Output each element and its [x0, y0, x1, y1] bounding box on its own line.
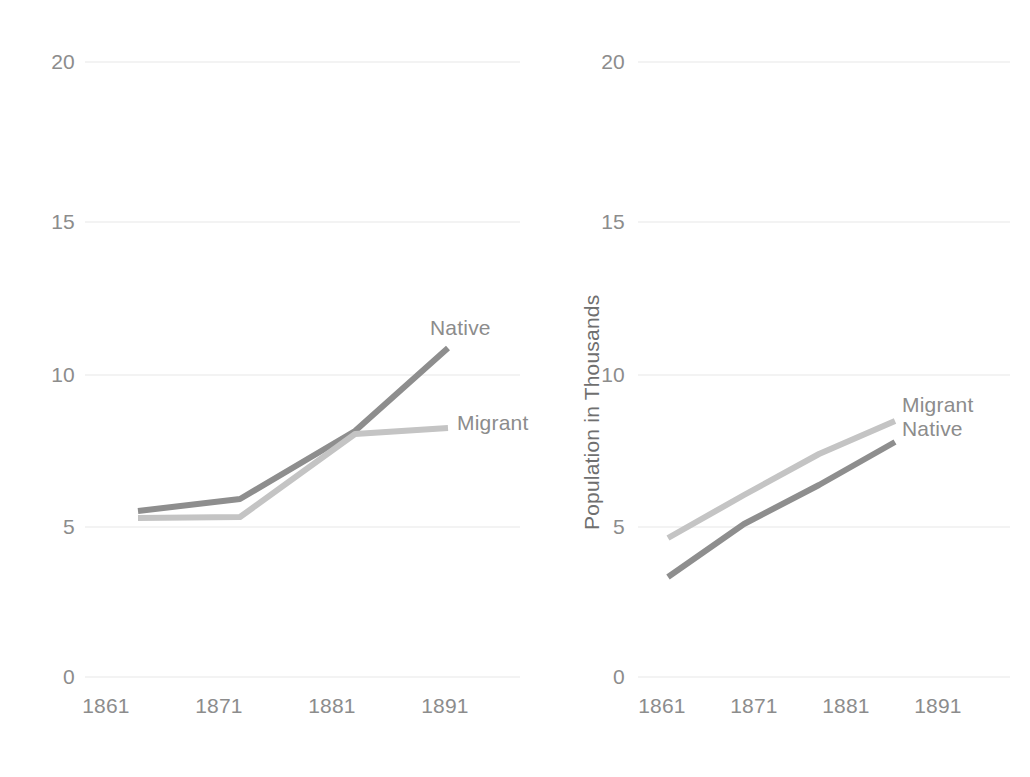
left-plot-area [0, 0, 560, 777]
right-gridlines [638, 62, 1010, 677]
left-series-label-native: Native [430, 316, 491, 340]
left-y-tick-0: 0 [20, 665, 75, 689]
right-y-tick-0: 0 [570, 665, 625, 689]
left-y-tick-20: 20 [20, 50, 75, 74]
left-y-tick-15: 15 [20, 210, 75, 234]
right-x-tick-1881: 1881 [806, 694, 886, 718]
left-x-tick-1891: 1891 [405, 694, 485, 718]
right-y-tick-5: 5 [570, 515, 625, 539]
right-series-label-migrant: Migrant [902, 393, 973, 417]
left-y-tick-5: 5 [20, 515, 75, 539]
left-x-tick-1861: 1861 [66, 694, 146, 718]
right-series-label-native: Native [902, 417, 963, 441]
right-plot-area [560, 0, 1030, 777]
left-x-tick-1881: 1881 [292, 694, 372, 718]
two-panel-line-chart-figure: 20 15 10 5 0 1861 1871 1881 1891 Native … [0, 0, 1030, 777]
right-series-migrant-line [668, 421, 895, 538]
left-y-tick-10: 10 [20, 363, 75, 387]
right-x-tick-1861: 1861 [622, 694, 702, 718]
right-x-tick-1871: 1871 [714, 694, 794, 718]
right-x-tick-1891: 1891 [898, 694, 978, 718]
chart-panel-left: 20 15 10 5 0 1861 1871 1881 1891 Native … [0, 0, 560, 777]
right-y-tick-20: 20 [570, 50, 625, 74]
right-y-axis-title: Population in Thousands [580, 295, 604, 530]
left-x-tick-1871: 1871 [179, 694, 259, 718]
right-series-native-line [668, 442, 895, 577]
right-y-tick-15: 15 [570, 210, 625, 234]
right-y-tick-10: 10 [570, 363, 625, 387]
chart-panel-right: Population in Thousands 20 15 10 5 0 186… [560, 0, 1030, 777]
left-series-label-migrant: Migrant [457, 411, 528, 435]
left-gridlines [85, 62, 520, 677]
